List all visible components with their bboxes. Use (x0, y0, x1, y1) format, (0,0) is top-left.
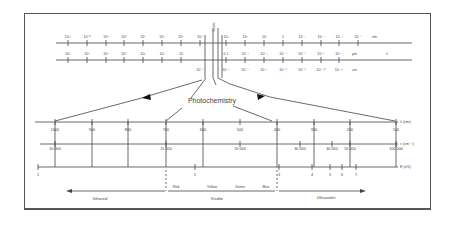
scale1-label: 10⁹ (103, 35, 109, 39)
scale2-label: 10⁻⁵ (298, 52, 306, 56)
wavenumber-tick-label: 20 000 (234, 147, 246, 151)
wavelength-unit: λ (nm) (400, 120, 411, 124)
scale1-label: 10⁵ (178, 35, 184, 39)
scale2-label: 10⁻² (241, 52, 249, 56)
scale1-label: 10⁸ (121, 35, 127, 39)
scale1-label: 10⁻⁴ (354, 35, 362, 39)
energy-tick-label: 1 (37, 173, 39, 177)
energy-unit: E (eV) (400, 165, 411, 169)
electromagnetic-spectrum-diagram: 10¹¹10¹⁰10⁹10⁸10⁷10⁶10⁵10⁴10³10²10110⁻¹1… (0, 0, 451, 246)
scale2-label: 10⁻⁶ (317, 52, 325, 56)
scale3-label: 10⁻⁵ (222, 68, 230, 72)
energy-tick-label: 6 (341, 173, 343, 177)
scale3-unit: cm (352, 68, 357, 72)
scale1-label: 10⁴ (197, 35, 203, 39)
wavenumber-tick-label: 30 000 (294, 147, 306, 151)
scale3-label: 10⁻¹¹ (335, 68, 344, 72)
color-label-red: Red (173, 185, 180, 189)
energy-tick-label: 5 (329, 173, 331, 177)
scale1-label: 10⁷ (140, 35, 146, 39)
scale3-label: 10⁻⁶ (241, 68, 249, 72)
scale3-label: 10⁻⁴ (196, 68, 204, 72)
scale2-label: 0.1 (224, 52, 229, 56)
scale3-label: 10⁻⁷ (260, 68, 268, 72)
energy-tick-label: 4 (311, 173, 313, 177)
scale2-label: 10² (159, 52, 165, 56)
scale2-label: 10⁵ (103, 52, 109, 56)
photochemistry-title: Photochemistry (188, 97, 237, 105)
scale1-label: 10⁶ (159, 35, 165, 39)
color-label-blue: Blue (262, 185, 269, 189)
scale2-label: 10⁶ (84, 52, 90, 56)
scale2-label: 10 (179, 52, 183, 56)
scale2-label: 10⁴ (121, 52, 127, 56)
region-visible: Visible (211, 196, 224, 201)
scale1-label: 10³ (223, 35, 229, 39)
scale2-unit: µm (352, 52, 357, 56)
wavelength-tick-label: 500 (237, 128, 243, 132)
scale2-label: 10⁻⁴ (279, 52, 287, 56)
scale2-label: 10³ (140, 52, 146, 56)
scale2-label: 10⁷ (65, 52, 71, 56)
wavenumber-unit: ν (cm⁻¹) (400, 142, 415, 146)
energy-tick-label: 2 (194, 173, 196, 177)
scale1-label: 10⁻³ (335, 35, 343, 39)
scale1-label: 10² (242, 35, 248, 39)
scale2-symbol: λ (386, 52, 388, 56)
wavenumber-tick-label: 40 000 (326, 147, 338, 151)
color-label-green: Green (235, 185, 245, 189)
scale2-label: 10⁻³ (260, 52, 268, 56)
scale2-label: 10⁻⁷ (335, 52, 343, 56)
scale1-label: 10¹¹ (65, 35, 72, 39)
color-label-yellow: Yellow (207, 185, 218, 189)
scale3-label: 10⁻⁸ (279, 68, 287, 72)
region-infrared: Infrared (93, 196, 108, 201)
scale3-label: 10⁻¹⁰ (316, 68, 325, 72)
region-ultraviolet: Ultraviolet (317, 195, 336, 200)
scale1-label: 10⁻¹ (298, 35, 306, 39)
energy-tick-label: 3 (278, 173, 280, 177)
visible-vertical-label: Visible (212, 22, 216, 32)
scale3-label: 10⁻⁹ (298, 68, 306, 72)
scale1-label: 1 (282, 35, 284, 39)
scale1-unit: nm (372, 35, 377, 39)
energy-tick-label: 7 (355, 173, 357, 177)
scale1-label: 10 (262, 35, 266, 39)
scale1-label: 10⁻² (317, 35, 325, 39)
scale1-label: 10¹⁰ (83, 35, 90, 39)
